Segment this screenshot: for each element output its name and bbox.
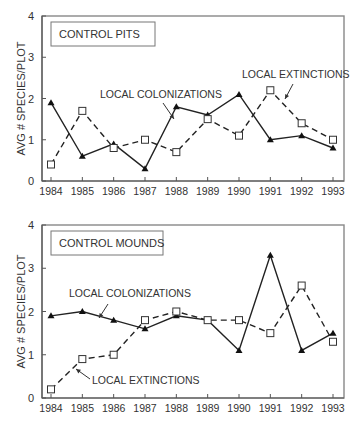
square-marker [48, 161, 55, 168]
y-tick-label: 4 [28, 10, 34, 22]
y-axis-label: AVG # SPECIES/PLOT [15, 254, 27, 368]
triangle-marker [330, 330, 337, 336]
x-tick-label: 1985 [71, 402, 95, 414]
y-tick-label: 1 [28, 134, 34, 146]
x-tick-label: 1986 [102, 185, 126, 197]
y-tick-label: 0 [28, 392, 34, 404]
chart-title: CONTROL PITS [59, 28, 140, 40]
x-tick-label: 1988 [165, 402, 189, 414]
square-marker [330, 136, 337, 143]
triangle-marker [298, 132, 305, 138]
x-tick-label: 1992 [290, 402, 314, 414]
square-marker [48, 386, 55, 393]
square-marker [142, 136, 149, 143]
triangle-marker [48, 99, 55, 105]
x-tick-label: 1989 [196, 402, 220, 414]
x-tick-label: 1991 [259, 402, 283, 414]
square-marker [79, 107, 86, 114]
annotation-label: LOCAL COLONIZATIONS [69, 287, 191, 299]
x-tick-label: 1990 [227, 402, 251, 414]
annotation-label: LOCAL EXTINCTIONS [92, 374, 200, 386]
square-marker [298, 282, 305, 289]
y-tick-label: 4 [28, 219, 34, 231]
triangle-marker [79, 308, 86, 314]
x-tick-label: 1987 [133, 402, 157, 414]
x-tick-label: 1991 [259, 185, 283, 197]
square-marker [236, 317, 243, 324]
x-tick-label: 1987 [133, 185, 157, 197]
square-marker [142, 317, 149, 324]
x-tick-label: 1989 [196, 185, 220, 197]
x-tick-label: 1986 [102, 402, 126, 414]
x-tick-label: 1992 [290, 185, 314, 197]
square-marker [204, 116, 211, 123]
annotation-label: LOCAL COLONIZATIONS [100, 88, 222, 100]
chart-panel-control-pits: 0123419841985198619871988198919901991199… [15, 10, 350, 197]
square-marker [204, 317, 211, 324]
y-axis-label: AVG # SPECIES/PLOT [15, 41, 27, 155]
chart-title: CONTROL MOUNDS [59, 237, 164, 249]
square-marker [173, 149, 180, 156]
triangle-marker [173, 103, 180, 109]
triangle-marker [236, 91, 243, 97]
arrowhead-icon [76, 369, 81, 373]
square-marker [79, 356, 86, 363]
square-marker [267, 330, 274, 337]
x-tick-label: 1984 [39, 402, 63, 414]
triangle-marker [298, 347, 305, 353]
y-tick-label: 1 [28, 349, 34, 361]
x-tick-label: 1993 [321, 185, 345, 197]
chart-panel-control-mounds: 0123419841985198619871988198919901991199… [15, 219, 345, 414]
x-tick-label: 1988 [165, 185, 189, 197]
series-line-colonizations [51, 94, 333, 168]
y-tick-label: 3 [28, 51, 34, 63]
y-tick-label: 0 [28, 175, 34, 187]
y-tick-label: 2 [28, 306, 34, 318]
annotation-label: LOCAL EXTINCTIONS [242, 68, 350, 80]
x-tick-label: 1984 [39, 185, 63, 197]
square-marker [173, 308, 180, 315]
chart-figure: 0123419841985198619871988198919901991199… [0, 0, 364, 423]
square-marker [110, 351, 117, 358]
series-line-extinctions [51, 90, 333, 164]
x-tick-label: 1985 [71, 185, 95, 197]
x-tick-label: 1993 [321, 402, 345, 414]
x-tick-label: 1990 [227, 185, 251, 197]
triangle-marker [267, 252, 274, 258]
square-marker [330, 338, 337, 345]
square-marker [110, 145, 117, 152]
y-tick-label: 3 [28, 262, 34, 274]
series-line-colonizations [51, 255, 333, 350]
y-tick-label: 2 [28, 93, 34, 105]
square-marker [236, 132, 243, 139]
square-marker [298, 120, 305, 127]
square-marker [267, 87, 274, 94]
